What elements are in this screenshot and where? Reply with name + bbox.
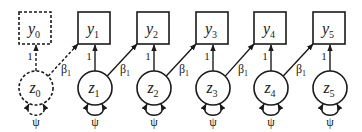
- cross-path-label-1: β1: [120, 62, 130, 78]
- latent-label-z4: z4: [263, 79, 275, 99]
- observed-label-y4: y4: [261, 20, 275, 40]
- loading-label-0: 1: [27, 50, 33, 62]
- latent-label-z4-sub: 4: [271, 88, 276, 99]
- cross-path-label-3: β1: [238, 62, 248, 78]
- observed-label-y1: y1: [85, 20, 99, 40]
- observed-label-y2-sub: 2: [153, 29, 158, 40]
- path-diagram: 1ψy0z01ψy1z11ψy2z21ψy3z31ψy4z41ψy5z5β1β1…: [0, 0, 362, 132]
- variance-label-2: ψ: [150, 115, 158, 129]
- variance-label-3: ψ: [209, 115, 217, 129]
- latent-label-z0: z0: [28, 79, 40, 99]
- variance-label-4: ψ: [267, 115, 275, 129]
- loading-label-3: 1: [204, 50, 210, 62]
- observed-label-y3-sub: 3: [212, 29, 217, 40]
- cross-path-label-4: β1: [296, 62, 306, 78]
- latent-label-z1: z1: [87, 79, 99, 99]
- observed-label-y0-sub: 0: [35, 29, 40, 40]
- beta-subscript: 1: [185, 69, 189, 78]
- latent-label-z2-sub: 2: [154, 88, 159, 99]
- latent-label-z5-sub: 5: [330, 88, 335, 99]
- cross-path-label-2: β1: [179, 62, 189, 78]
- loading-label-5: 1: [321, 50, 327, 62]
- variance-label-0: ψ: [32, 115, 40, 129]
- cross-path-label-0: β1: [61, 62, 71, 78]
- beta-subscript: 1: [244, 69, 248, 78]
- latent-label-z3-sub: 3: [213, 88, 218, 99]
- latent-label-z3: z3: [205, 79, 217, 99]
- observed-label-y3: y3: [203, 20, 217, 40]
- observed-label-y5-sub: 5: [329, 29, 334, 40]
- observed-label-y0: y0: [26, 20, 40, 40]
- variance-label-1: ψ: [91, 115, 99, 129]
- observed-label-y2: y2: [144, 20, 158, 40]
- latent-label-z1-sub: 1: [95, 88, 100, 99]
- observed-label-y4-sub: 4: [270, 29, 275, 40]
- beta-subscript: 1: [302, 69, 306, 78]
- latent-label-z2: z2: [146, 79, 158, 99]
- loading-label-2: 1: [145, 50, 151, 62]
- latent-label-z5: z5: [322, 79, 334, 99]
- latent-label-z0-sub: 0: [36, 88, 41, 99]
- observed-label-y1-sub: 1: [94, 29, 99, 40]
- observed-label-y5: y5: [320, 20, 334, 40]
- variance-label-5: ψ: [326, 115, 334, 129]
- beta-subscript: 1: [67, 69, 71, 78]
- loading-label-4: 1: [262, 50, 268, 62]
- beta-subscript: 1: [126, 69, 130, 78]
- loading-label-1: 1: [86, 50, 92, 62]
